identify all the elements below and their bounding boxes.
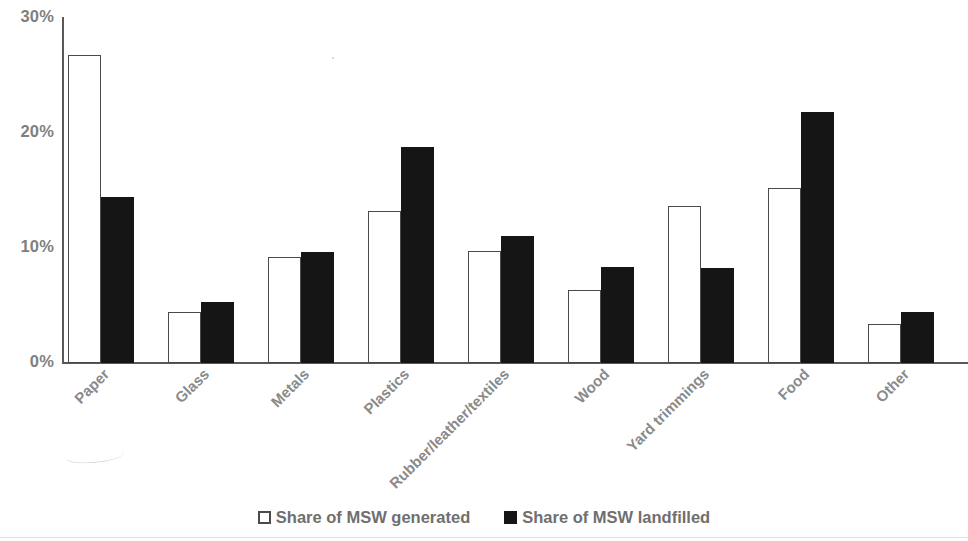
- bar-group: [368, 17, 434, 363]
- bar-group: [868, 17, 934, 363]
- bar-generated: [68, 55, 101, 363]
- bar-generated: [768, 188, 801, 363]
- bar-chart: 30% 20% 10% 0% PaperGlassMetalsPlasticsR…: [0, 0, 968, 541]
- bar-generated: [568, 290, 601, 363]
- bar-generated: [368, 211, 401, 363]
- bar-group: [68, 17, 134, 363]
- bar-generated: [468, 251, 501, 363]
- bar-group: [768, 17, 834, 363]
- bar-generated: [668, 206, 701, 363]
- plot-area: [62, 17, 968, 363]
- bar-landfilled: [801, 112, 834, 363]
- bar-landfilled: [101, 197, 134, 363]
- bar-group: [568, 17, 634, 363]
- bar-landfilled: [701, 268, 734, 363]
- y-axis-tick-labels: 30% 20% 10% 0%: [0, 0, 54, 380]
- bar-landfilled: [201, 302, 234, 363]
- y-tick-10: 10%: [0, 238, 54, 255]
- bar-landfilled: [501, 236, 534, 363]
- bar-landfilled: [301, 252, 334, 363]
- x-axis-category-labels: PaperGlassMetalsPlasticsRubber/leather/t…: [62, 366, 968, 496]
- y-tick-0: 0%: [0, 353, 54, 370]
- bar-generated: [268, 257, 301, 363]
- bar-group: [168, 17, 234, 363]
- bar-group: [268, 17, 334, 363]
- filled-square-icon: [504, 511, 517, 524]
- legend-label: Share of MSW generated: [276, 508, 470, 527]
- bar-landfilled: [601, 267, 634, 363]
- bar-landfilled: [901, 312, 934, 363]
- y-tick-20: 20%: [0, 123, 54, 140]
- y-tick-30: 30%: [0, 8, 54, 25]
- legend-item: Share of MSW generated: [258, 508, 470, 527]
- bar-generated: [168, 312, 201, 363]
- chart-legend: Share of MSW generatedShare of MSW landf…: [0, 508, 968, 527]
- open-square-icon: [258, 511, 271, 524]
- legend-label: Share of MSW landfilled: [522, 508, 710, 527]
- bar-landfilled: [401, 147, 434, 363]
- bar-group: [468, 17, 534, 363]
- bar-group: [668, 17, 734, 363]
- legend-item: Share of MSW landfilled: [504, 508, 710, 527]
- bar-generated: [868, 324, 901, 363]
